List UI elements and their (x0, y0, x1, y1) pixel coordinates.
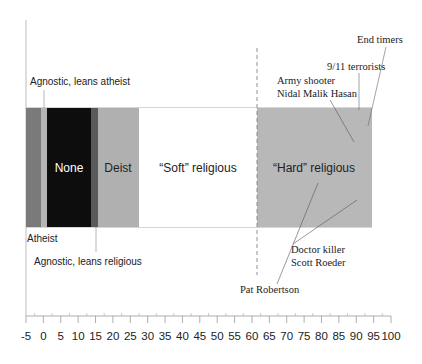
annotation-agnostic-leans-religious: Agnostic, leans religious (34, 256, 142, 267)
annotation-nidal-malik-hasan: Nidal Malik Hasan (277, 88, 358, 99)
x-tick-label: -5 (21, 330, 31, 342)
x-tick-label: 20 (107, 330, 120, 342)
segment-atheist (26, 108, 41, 227)
leader-end-timers (368, 47, 386, 126)
x-tick-label: 70 (280, 330, 293, 342)
annotation-army-shooter: Army shooter (277, 75, 336, 86)
x-tick-label: 80 (315, 330, 328, 342)
x-tick-label: 95 (367, 330, 380, 342)
label-soft-religious: “Soft” religious (159, 161, 236, 175)
annotation-atheist: Atheist (27, 233, 58, 244)
x-tick-label: 100 (381, 330, 400, 342)
x-tick-label: 55 (228, 330, 241, 342)
x-tick-label: 40 (176, 330, 189, 342)
x-tick-label: 90 (350, 330, 363, 342)
x-tick-label: 0 (40, 330, 46, 342)
x-tick-label: 60 (246, 330, 259, 342)
x-tick-label: 85 (332, 330, 345, 342)
label-hard-religious: “Hard” religious (273, 161, 355, 175)
x-tick-label: 5 (58, 330, 64, 342)
annotation-doctor-killer: Doctor killer (291, 244, 345, 255)
x-axis-ticks: -505101520253035404550556065707580859095… (21, 313, 401, 342)
label-deist: Deist (104, 161, 132, 175)
label-none: None (55, 161, 84, 175)
x-tick-label: 50 (211, 330, 224, 342)
x-tick-label: 45 (193, 330, 206, 342)
x-tick-label: 35 (159, 330, 172, 342)
annotation-agnostic-leans-atheist: Agnostic, leans atheist (30, 76, 130, 87)
annotation-9-11-terrorists: 9/11 terrorists (327, 61, 385, 72)
x-axis: -505101520253035404550556065707580859095… (21, 313, 401, 342)
religiosity-spectrum-chart: None Deist “Soft” religious “Hard” relig… (0, 0, 422, 364)
x-tick-label: 25 (124, 330, 137, 342)
x-tick-label: 15 (89, 330, 102, 342)
x-tick-label: 65 (263, 330, 276, 342)
annotation-end-timers: End timers (357, 34, 403, 45)
annotation-scott-roeder: Scott Roeder (291, 257, 346, 268)
x-tick-label: 30 (141, 330, 154, 342)
x-tick-label: 75 (298, 330, 311, 342)
x-tick-label: 10 (72, 330, 85, 342)
segment-agnostic-leans-religious (91, 108, 98, 227)
segment-agnostic-leans-atheist (41, 108, 47, 227)
annotation-pat-robertson: Pat Robertson (240, 284, 300, 295)
